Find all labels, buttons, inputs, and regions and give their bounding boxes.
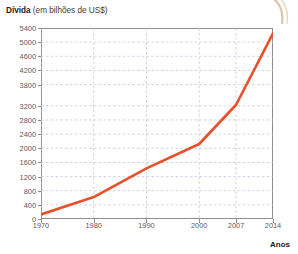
x-tick-mark bbox=[146, 219, 147, 223]
chart-title-strong: Dívida bbox=[6, 6, 31, 15]
y-tick-label: 5400 bbox=[20, 24, 36, 33]
y-tick-label: 3200 bbox=[20, 101, 36, 110]
y-tick-label: 2000 bbox=[20, 144, 36, 153]
x-tick-mark bbox=[199, 219, 200, 223]
y-tick-label: 4600 bbox=[20, 52, 36, 61]
y-tick-label: 4200 bbox=[20, 66, 36, 75]
page-corner-swoosh-icon bbox=[256, 0, 298, 24]
y-axis-labels: 0400800120016002000240028003200380042004… bbox=[0, 28, 39, 219]
y-tick-label: 5000 bbox=[20, 38, 36, 47]
x-tick-mark bbox=[236, 219, 237, 223]
data-polyline bbox=[41, 33, 273, 214]
y-tick-label: 2400 bbox=[20, 130, 36, 139]
data-line-series bbox=[41, 28, 273, 219]
x-tick-mark bbox=[273, 219, 274, 223]
plot-area bbox=[41, 28, 273, 219]
x-tick-mark bbox=[41, 219, 42, 223]
y-tick-label: 2800 bbox=[20, 115, 36, 124]
y-tick-label: 400 bbox=[24, 200, 36, 209]
chart-title-rest: (em bilhões de US$) bbox=[31, 6, 108, 15]
chart-root: Dívida (em bilhões de US$) Gráfico ©DAE … bbox=[0, 0, 298, 254]
y-tick-label: 800 bbox=[24, 186, 36, 195]
y-tick-label: 3800 bbox=[20, 80, 36, 89]
x-axis-labels: 197019801990200020072014 bbox=[0, 221, 298, 235]
y-tick-label: 1600 bbox=[20, 158, 36, 167]
x-tick-mark bbox=[94, 219, 95, 223]
y-tick-label: 1200 bbox=[20, 172, 36, 181]
chart-title: Dívida (em bilhões de US$) bbox=[6, 5, 107, 16]
x-axis-title: Anos bbox=[270, 240, 290, 249]
